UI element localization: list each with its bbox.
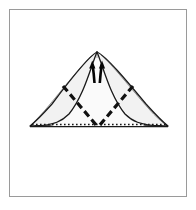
origami-diagram <box>0 0 196 210</box>
figure-root: Origami fold step diagram Triangular fol… <box>0 0 196 210</box>
